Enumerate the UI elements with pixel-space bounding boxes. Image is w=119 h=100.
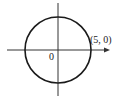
- x-axis-arrow-icon: [104, 48, 110, 53]
- point-label: (5, 0): [90, 34, 112, 46]
- origin-label: 0: [49, 51, 54, 62]
- diagram-canvas: 0 (5, 0): [0, 0, 119, 100]
